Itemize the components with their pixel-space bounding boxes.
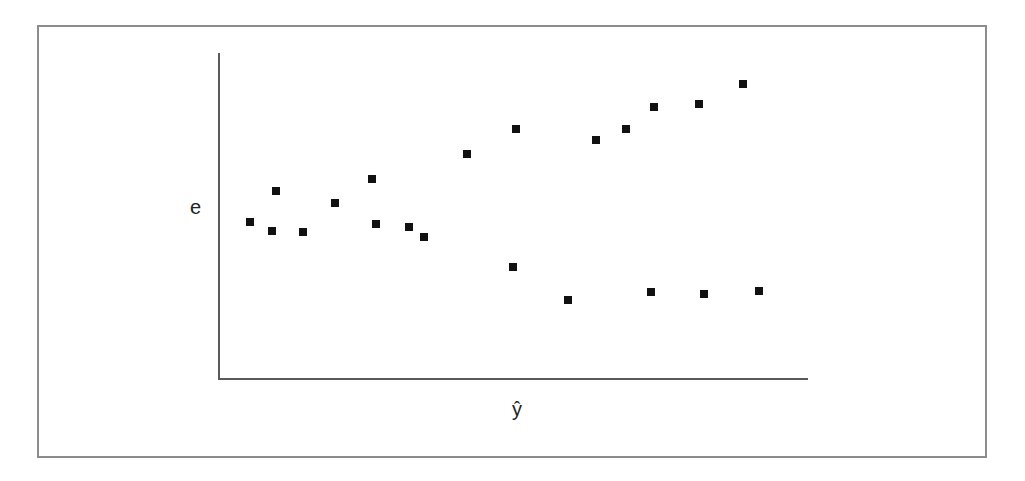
x-axis-label: ŷ (512, 398, 522, 421)
data-point (647, 288, 655, 296)
y-axis-label: e (190, 196, 201, 219)
data-point (463, 150, 471, 158)
data-point (700, 290, 708, 298)
data-point (739, 80, 747, 88)
data-point (405, 223, 413, 231)
scatter-plot-area (218, 53, 808, 378)
data-point (268, 227, 276, 235)
data-point (272, 187, 280, 195)
x-axis-line (218, 378, 808, 380)
data-point (368, 175, 376, 183)
y-axis-line (218, 53, 220, 379)
data-point (299, 228, 307, 236)
data-point (622, 125, 630, 133)
data-point (420, 233, 428, 241)
data-point (246, 218, 254, 226)
data-point (372, 220, 380, 228)
data-point (695, 100, 703, 108)
data-point (509, 263, 517, 271)
data-point (564, 296, 572, 304)
data-point (592, 136, 600, 144)
data-point (331, 199, 339, 207)
data-point (755, 287, 763, 295)
data-point (512, 125, 520, 133)
data-point (650, 103, 658, 111)
